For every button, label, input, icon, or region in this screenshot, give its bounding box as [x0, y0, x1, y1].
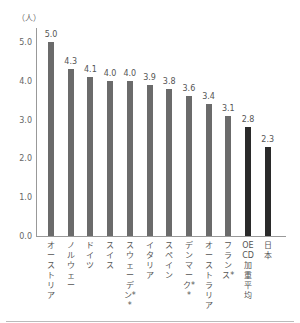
y-tick-label: 4.0: [6, 76, 32, 85]
x-category-label: イタリア: [144, 241, 156, 281]
y-axis-line: [36, 28, 37, 236]
bar: [87, 77, 93, 236]
y-axis-unit-label: （人）: [17, 12, 41, 23]
bar-value-label: 5.0: [39, 30, 63, 39]
bar: [225, 116, 231, 236]
x-axis-line: [36, 236, 286, 237]
bar-value-label: 3.4: [197, 92, 221, 101]
x-category-label: OECD加重平均: [242, 241, 254, 301]
bar: [186, 96, 192, 236]
y-tick-label: 0.0: [6, 232, 32, 241]
x-category-label: スイス: [104, 241, 116, 271]
bar-chart: （人） 0.01.02.03.04.05.0 5.0オーストリア4.3ノルウェー…: [0, 0, 300, 323]
y-tick-label: 5.0: [6, 38, 32, 47]
bar-value-label: 3.1: [216, 104, 240, 113]
x-category-label: スペイン: [163, 241, 175, 281]
bar: [166, 89, 172, 236]
x-category-label: スウェーデン**: [124, 241, 136, 311]
bar: [107, 81, 113, 236]
x-category-label: オーストラリア: [203, 241, 215, 311]
x-category-label: ドイツ: [84, 241, 96, 271]
bottom-divider: [6, 321, 294, 322]
bar: [127, 81, 133, 236]
y-tick-label: 3.0: [6, 115, 32, 124]
x-category-label: フランス*: [222, 241, 234, 281]
bar: [265, 147, 271, 236]
bar-value-label: 2.3: [256, 135, 280, 144]
y-tick-label: 2.0: [6, 154, 32, 163]
bar: [68, 69, 74, 236]
y-tick-label: 1.0: [6, 193, 32, 202]
x-category-label: 日本: [262, 241, 274, 261]
bar: [206, 104, 212, 236]
bar: [48, 42, 54, 236]
x-category-label: オーストリア: [45, 241, 57, 301]
x-category-label: デンマーク**: [183, 241, 195, 301]
bar: [147, 85, 153, 236]
bar: [245, 127, 251, 236]
bar-value-label: 2.8: [236, 115, 260, 124]
x-category-label: ノルウェー: [65, 241, 77, 291]
